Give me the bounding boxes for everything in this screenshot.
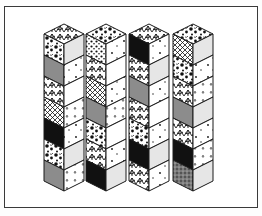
illustration-canvas (0, 0, 262, 216)
column-4 (173, 24, 213, 191)
column-1 (44, 24, 84, 191)
block-columns-diagram (0, 0, 262, 216)
column-2 (86, 24, 126, 191)
column-3 (129, 24, 169, 191)
